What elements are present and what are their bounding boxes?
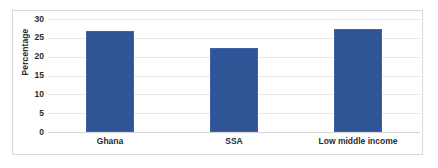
y-tick-label-0: 0 (22, 128, 44, 137)
y-tick-label-10: 10 (22, 90, 44, 99)
gridline-0 (48, 132, 420, 133)
category-label-low-middle-income: Low middle income (296, 136, 420, 146)
plot-area (48, 19, 420, 132)
bar-ssa[interactable] (210, 48, 258, 132)
y-tick-label-15: 15 (22, 71, 44, 80)
y-tick-label-25: 25 (22, 33, 44, 42)
x-axis-category-labels: GhanaSSALow middle income (48, 136, 420, 150)
bar-chart-figure: Percentage 051015202530 GhanaSSALow midd… (0, 0, 438, 168)
bar-low-middle-income[interactable] (334, 29, 382, 132)
y-tick-label-20: 20 (22, 52, 44, 61)
y-tick-label-5: 5 (22, 109, 44, 118)
category-label-ghana: Ghana (48, 136, 172, 146)
bars-group (48, 19, 420, 132)
y-axis-tick-labels: 051015202530 (22, 19, 44, 132)
y-tick-label-30: 30 (22, 15, 44, 24)
category-label-ssa: SSA (172, 136, 296, 146)
bar-ghana[interactable] (86, 31, 134, 132)
